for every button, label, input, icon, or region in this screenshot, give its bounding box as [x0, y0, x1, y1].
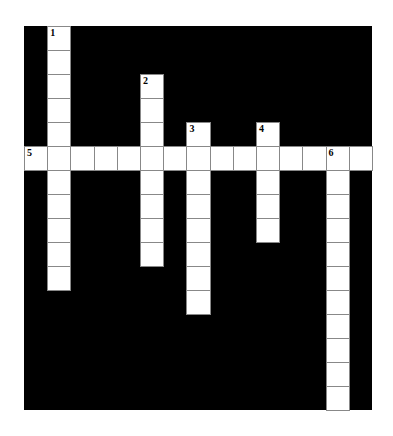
crossword-cell[interactable]	[210, 146, 234, 171]
crossword-cell[interactable]	[349, 146, 373, 171]
crossword-cell[interactable]	[47, 146, 71, 171]
crossword-cell[interactable]	[256, 170, 280, 195]
crossword-cell[interactable]	[186, 146, 210, 171]
crossword-cell[interactable]	[326, 362, 350, 387]
crossword-cell[interactable]	[47, 74, 71, 99]
crossword-cell[interactable]: 2	[140, 74, 164, 99]
crossword-cell[interactable]	[256, 146, 280, 171]
crossword-cell[interactable]	[70, 146, 94, 171]
clue-number: 1	[50, 27, 55, 39]
crossword-cell[interactable]	[47, 170, 71, 195]
crossword-cell[interactable]: 4	[256, 122, 280, 147]
clue-number: 4	[259, 123, 264, 135]
crossword-cell[interactable]	[186, 266, 210, 291]
crossword-cell[interactable]	[140, 146, 164, 171]
crossword-cell[interactable]	[326, 218, 350, 243]
crossword-cell[interactable]	[140, 98, 164, 123]
crossword-cell[interactable]	[326, 266, 350, 291]
crossword-cell[interactable]	[326, 170, 350, 195]
crossword-cell[interactable]	[140, 122, 164, 147]
crossword-cell[interactable]	[47, 98, 71, 123]
crossword-cell[interactable]	[326, 338, 350, 363]
crossword-cell[interactable]	[186, 170, 210, 195]
crossword-cell[interactable]	[279, 146, 303, 171]
crossword-cell[interactable]: 6	[326, 146, 350, 171]
crossword-grid: 123456	[24, 26, 372, 410]
crossword-cell[interactable]	[47, 242, 71, 267]
crossword-cell[interactable]	[326, 314, 350, 339]
crossword-cell[interactable]: 1	[47, 26, 71, 51]
clue-number: 5	[27, 147, 32, 159]
crossword-cell[interactable]	[186, 290, 210, 315]
crossword-cell[interactable]	[163, 146, 187, 171]
crossword-cell[interactable]	[47, 122, 71, 147]
crossword-cell[interactable]	[117, 146, 141, 171]
crossword-cell[interactable]	[140, 242, 164, 267]
crossword-cell[interactable]	[326, 386, 350, 411]
crossword-cell[interactable]	[94, 146, 118, 171]
crossword-cell[interactable]	[256, 218, 280, 243]
crossword-cell[interactable]	[47, 50, 71, 75]
crossword-cell[interactable]	[256, 194, 280, 219]
crossword-cell[interactable]: 3	[186, 122, 210, 147]
crossword-cell[interactable]	[326, 242, 350, 267]
crossword-cell[interactable]	[186, 194, 210, 219]
crossword-cell[interactable]	[186, 242, 210, 267]
crossword-cell[interactable]	[47, 194, 71, 219]
crossword-cell[interactable]	[186, 218, 210, 243]
crossword-cell[interactable]	[47, 218, 71, 243]
crossword-cell[interactable]	[140, 218, 164, 243]
crossword-cell[interactable]	[233, 146, 257, 171]
crossword-cell[interactable]	[140, 194, 164, 219]
crossword-cell[interactable]: 5	[24, 146, 48, 171]
crossword-cell[interactable]	[302, 146, 326, 171]
crossword-cell[interactable]	[326, 194, 350, 219]
crossword-cell[interactable]	[47, 266, 71, 291]
clue-number: 2	[143, 75, 148, 87]
crossword-cell[interactable]	[326, 290, 350, 315]
crossword-cell[interactable]	[140, 170, 164, 195]
clue-number: 3	[189, 123, 194, 135]
clue-number: 6	[329, 147, 334, 159]
